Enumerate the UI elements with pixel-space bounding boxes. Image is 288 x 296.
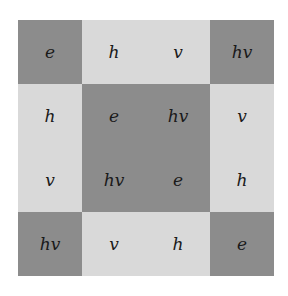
cell-r2-c3: h [210, 148, 274, 212]
cell-r1-c3: v [210, 84, 274, 148]
cell-r0-c0: e [18, 20, 82, 84]
cell-r0-c3: hv [210, 20, 274, 84]
cell-r1-c2: hv [146, 84, 210, 148]
cell-r1-c0: h [18, 84, 82, 148]
cell-r3-c2: h [146, 212, 210, 276]
cell-r1-c1: e [82, 84, 146, 148]
cell-r2-c1: hv [82, 148, 146, 212]
cell-r0-c1: h [82, 20, 146, 84]
cell-r2-c2: e [146, 148, 210, 212]
cell-r0-c2: v [146, 20, 210, 84]
cell-r2-c0: v [18, 148, 82, 212]
cell-r3-c0: hv [18, 212, 82, 276]
group-table-grid: e h v hv h e hv v v hv e h hv v h e [18, 20, 274, 276]
cell-r3-c1: v [82, 212, 146, 276]
cell-r3-c3: e [210, 212, 274, 276]
